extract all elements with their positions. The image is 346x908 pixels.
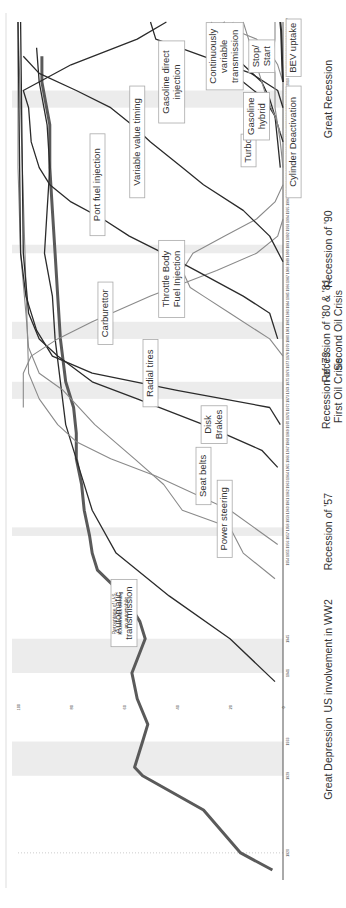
year-tick-label: 1992	[286, 232, 290, 240]
callout-gdi: Gasoline directinjection	[159, 41, 185, 123]
year-tick-label: 1995	[286, 207, 290, 215]
percent-tick-label: 80	[69, 704, 74, 709]
year-tick-label: 1972	[286, 404, 290, 412]
recession-band	[12, 527, 283, 536]
year-tick-label: 1959	[286, 515, 290, 523]
year-tick-label: 1969	[286, 429, 290, 437]
callout-text: Fuel Injection	[171, 251, 182, 308]
year-tick-label: 1955	[286, 549, 290, 557]
year-tick-label: 1988	[286, 266, 290, 274]
callout-text: Throttle Body	[160, 250, 171, 307]
callout-vvt: Variable value timing	[130, 86, 145, 198]
callout-text: Cylinder Deactivation	[287, 97, 298, 187]
callout-text: Turbo	[242, 138, 253, 162]
year-tick-label: 1978	[286, 352, 290, 360]
year-tick-label: 1954	[286, 558, 290, 566]
year-tick-label: 1979	[286, 344, 290, 352]
recession-label: US involvement in WW2	[322, 599, 334, 712]
callout-text: Brakes	[213, 410, 224, 440]
callout-text: Variable value timing	[131, 98, 142, 185]
callout-carb: Carburettor	[98, 282, 113, 344]
year-tick-label: 1994	[286, 215, 290, 223]
recession-label: Recession of '90	[322, 210, 334, 287]
year-tick-label: 1989	[286, 258, 290, 266]
callout-text: Power steering	[218, 487, 229, 550]
callout-text: Start	[261, 46, 272, 66]
rotated-chart: Great DepressionUS involvement in WW2Rec…	[0, 8, 346, 898]
callout-text: Port fuel injection	[91, 148, 102, 221]
chart-frame: Great DepressionUS involvement in WW2Rec…	[0, 0, 346, 908]
callout-text: Gasoline	[245, 97, 256, 135]
year-tick-label: 1993	[286, 224, 290, 232]
year-tick-label: 1961	[286, 498, 290, 506]
year-tick-label: 1971	[286, 412, 290, 420]
year-tick-label: 1980	[286, 335, 290, 343]
year-tick-label: 1964	[286, 472, 290, 480]
callout-radial: Radial tires	[143, 340, 158, 407]
year-tick-label: 1970	[286, 421, 290, 429]
percent-tick-label: 20	[228, 704, 233, 709]
year-tick-label: 1929	[286, 772, 290, 780]
callout-text: Stop/	[250, 45, 261, 68]
recession-band	[12, 322, 283, 339]
household-annotation: Percentage of U.S.households owningan au…	[111, 591, 129, 634]
year-tick-label: 2010	[286, 78, 290, 86]
year-tick-label: 1965	[286, 463, 290, 471]
recession-band	[12, 742, 283, 776]
callout-hybrid: Gasolinehybrid	[244, 92, 270, 140]
recession-band	[12, 91, 283, 108]
year-tick-label: 1963	[286, 481, 290, 489]
callout-bev: BEV uptake	[286, 19, 301, 76]
year-tick-label: 1991	[286, 241, 290, 249]
svg-text:an automobile: an automobile	[123, 597, 129, 629]
callout-cvt: Continuouslyvariabletransmission	[206, 23, 243, 90]
year-tick-label: 1933	[286, 738, 290, 746]
year-tick-label: 1920	[286, 849, 290, 857]
recession-label: Recession of '80 & '81Second Oil Crisis	[320, 278, 344, 382]
year-tick-label: 1977	[286, 361, 290, 369]
callout-text: variable	[218, 40, 229, 73]
percent-tick-label: 40	[175, 704, 180, 709]
recession-band	[12, 639, 283, 673]
callout-text: injection	[171, 65, 182, 100]
callout-stopstart: Stop/Start	[249, 40, 275, 73]
recession-label: Great Recession	[322, 60, 334, 138]
year-tick-label: 1973	[286, 395, 290, 403]
feature-adoption-chart: Great DepressionUS involvement in WW2Rec…	[0, 8, 346, 898]
year-tick-label: 1956	[286, 541, 290, 549]
year-tick-label: 1975	[286, 378, 290, 386]
callout-cyl: Cylinder Deactivation	[286, 86, 301, 198]
year-tick-label: 1985	[286, 292, 290, 300]
year-tick-label: 1981	[286, 326, 290, 334]
year-tick-label: 1984	[286, 301, 290, 309]
callout-text: BEV uptake	[287, 23, 298, 73]
callout-pfi: Port fuel injection	[90, 134, 105, 236]
callout-power: Power steering	[217, 480, 232, 557]
year-tick-label: 1968	[286, 438, 290, 446]
year-tick-label: 1957	[286, 532, 290, 540]
percent-tick-label: 60	[122, 704, 127, 709]
year-tick-label: 1960	[286, 506, 290, 514]
callout-text: Seat belts	[197, 455, 208, 497]
year-tick-label: 1941	[286, 669, 290, 677]
recession-band	[12, 245, 283, 254]
year-tick-label: 1945	[286, 635, 290, 643]
recession-label: Great Depression	[322, 717, 334, 799]
callout-text: Gasoline direct	[160, 50, 171, 114]
callout-disk: DiskBrakes	[201, 406, 227, 444]
callout-text: transmission	[229, 30, 240, 83]
year-tick-label: 1990	[286, 249, 290, 257]
year-tick-label: 1986	[286, 284, 290, 292]
callout-text: Radial tires	[144, 349, 155, 397]
callout-tbi: Throttle BodyFuel Injection	[159, 240, 185, 317]
year-tick-label: 1976	[286, 369, 290, 377]
year-tick-label: 1983	[286, 309, 290, 317]
year-tick-label: 1987	[286, 275, 290, 283]
year-tick-label: 1958	[286, 523, 290, 531]
callout-seatbelts: Seat belts	[196, 447, 211, 504]
year-tick-label: 1996	[286, 198, 290, 206]
callout-text: hybrid	[256, 103, 267, 129]
year-tick-label: 1974	[286, 386, 290, 394]
callout-text: Continuously	[207, 29, 218, 84]
year-tick-label: 1966	[286, 455, 290, 463]
